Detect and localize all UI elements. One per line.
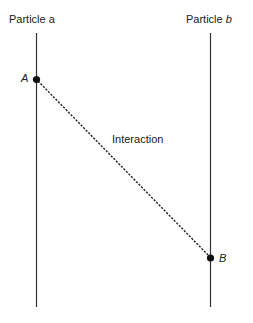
event-a-dot	[33, 76, 40, 83]
event-a-label: A	[20, 72, 28, 84]
particle-b-name: b	[226, 13, 232, 25]
particle-a-prefix: Particle	[9, 13, 49, 25]
particle-b-prefix: Particle	[186, 13, 226, 25]
event-b-label: B	[219, 252, 226, 264]
spacetime-diagram: Particle a Particle b Interaction A B	[0, 0, 253, 323]
event-b-dot	[207, 254, 214, 261]
particle-a-name: a	[49, 13, 56, 25]
interaction-label: Interaction	[112, 133, 163, 145]
interaction-line	[38, 81, 209, 256]
particle-a-label: Particle a	[9, 13, 56, 25]
particle-b-label: Particle b	[186, 13, 232, 25]
